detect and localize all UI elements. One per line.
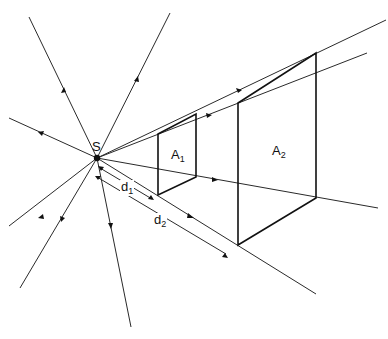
radiating-rays — [9, 13, 170, 327]
ray-lower-left — [9, 158, 97, 226]
arrow-down-icon — [108, 223, 113, 229]
inverse-square-diagram — [0, 0, 388, 339]
distance-1-label: d1 — [120, 180, 134, 196]
area-1-label: A1 — [171, 148, 185, 164]
cone-ray-bottom — [97, 158, 316, 294]
arrow-cone-bottom-icon — [187, 213, 194, 218]
ray-up-left — [29, 17, 97, 158]
cone-rays — [97, 20, 386, 294]
ray-down-left — [20, 158, 97, 288]
ray-left — [9, 118, 97, 158]
cone-ray-top — [97, 20, 386, 158]
arrow-distance-2-end-icon — [222, 253, 228, 258]
ray-up-right — [97, 13, 170, 158]
distance-markers — [97, 168, 226, 254]
cone-ray-upper — [97, 53, 367, 158]
source-label: S — [92, 140, 101, 153]
source-point-dot — [94, 155, 100, 161]
arrow-lower-left-icon — [38, 214, 44, 219]
area-2-label: A2 — [272, 144, 286, 160]
distance-2-label: d2 — [153, 213, 167, 229]
